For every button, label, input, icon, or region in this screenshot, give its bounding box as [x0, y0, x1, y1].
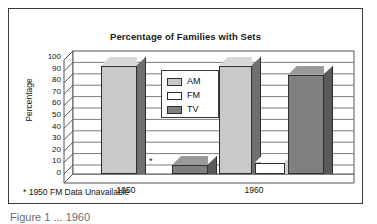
legend-label-am: AM — [187, 77, 201, 86]
bar-1960-am-side — [251, 57, 261, 174]
y-tick-50: 50 — [52, 111, 61, 119]
y-tick-60: 60 — [52, 99, 61, 107]
y-tick-90: 90 — [52, 65, 61, 73]
bar-1950-am-front — [101, 66, 137, 174]
bar-1960-tv-side — [323, 66, 333, 174]
bar-1950-am — [101, 66, 137, 174]
chart-footnote: * 1950 FM Data Unavailable — [23, 187, 129, 197]
legend-item-fm: FM — [167, 89, 218, 102]
bar-1960-tv-front — [288, 75, 324, 174]
bar-1960-tv — [288, 75, 324, 174]
bar-1950-tv-front — [172, 165, 208, 174]
bar-1960-fm — [255, 163, 285, 174]
y-tick-0: 0 — [57, 169, 61, 177]
chart-title: Percentage of Families with Sets — [9, 31, 362, 42]
y-axis-tick-labels: 100 90 80 70 60 50 40 30 20 10 0 — [35, 53, 61, 179]
legend-swatch-fm — [167, 92, 182, 100]
y-tick-10: 10 — [52, 157, 61, 165]
caption-fragment: Figure 1 ... 1960 — [10, 211, 90, 224]
bar-1960-am-front — [219, 66, 252, 174]
legend-swatch-am — [167, 78, 182, 86]
legend-label-tv: TV — [187, 105, 199, 114]
bar-1960-fm-front — [255, 163, 285, 174]
chart-legend: AM FM TV — [161, 70, 219, 118]
y-tick-20: 20 — [52, 146, 61, 154]
legend-item-am: AM — [167, 75, 218, 88]
bar-1960-am — [219, 66, 252, 174]
legend-swatch-tv — [167, 106, 182, 114]
missing-data-asterisk: * — [149, 157, 153, 166]
figure-frame: Percentage of Families with Sets Percent… — [8, 8, 363, 204]
bar-1950-am-side — [136, 57, 146, 174]
y-axis-title: Percentage — [24, 60, 34, 140]
y-tick-40: 40 — [52, 123, 61, 131]
x-label-1960: 1960 — [224, 185, 284, 195]
y-tick-100: 100 — [48, 53, 61, 61]
bar-1950-tv — [172, 165, 208, 174]
legend-label-fm: FM — [187, 91, 200, 100]
y-tick-30: 30 — [52, 134, 61, 142]
y-tick-70: 70 — [52, 88, 61, 96]
y-tick-80: 80 — [52, 76, 61, 84]
legend-item-tv: TV — [167, 103, 218, 116]
